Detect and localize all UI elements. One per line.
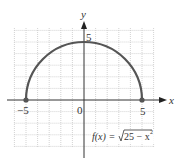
function-radicand: 25 − x <box>124 131 150 142</box>
tick-label-neg5: −5 <box>17 104 29 116</box>
endpoint-right <box>139 97 144 102</box>
x-axis-label: x <box>168 94 174 106</box>
x-axis-arrow-icon <box>159 97 167 103</box>
function-label: f(x) = 25 − x 2 <box>91 129 157 143</box>
tick-label-5-y: 5 <box>86 31 92 43</box>
y-axis-arrow-icon <box>81 21 87 29</box>
function-lhs: f(x) = <box>92 131 115 143</box>
tick-label-5-x: 5 <box>140 105 146 117</box>
y-axis-label: y <box>80 8 86 20</box>
chart-container: x y −5 0 5 5 f(x) = 25 − x 2 <box>0 0 180 165</box>
endpoint-left <box>23 97 28 102</box>
function-exponent: 2 <box>150 129 153 135</box>
semicircle-plot: x y −5 0 5 5 f(x) = 25 − x 2 <box>0 0 180 165</box>
tick-label-0: 0 <box>77 104 83 116</box>
